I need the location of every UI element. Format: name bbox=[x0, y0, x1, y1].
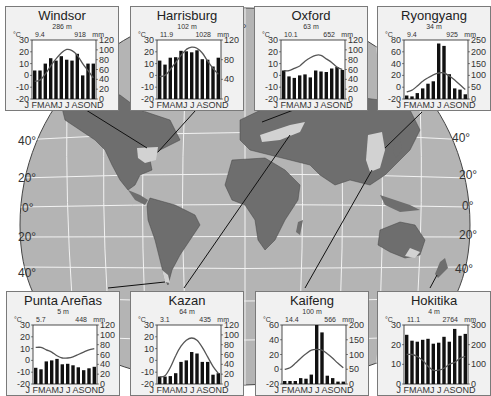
temp-tick-label: 0 bbox=[149, 355, 154, 365]
temp-tick-label: 0 bbox=[273, 70, 278, 80]
precip-bar bbox=[464, 334, 467, 384]
temp-tick-label: -10 bbox=[141, 82, 154, 92]
climate-chart-kazan: Kazan64 m°C3.1435mm3020100-10-2012010080… bbox=[130, 291, 244, 396]
precip-bar bbox=[163, 65, 166, 99]
precip-bar bbox=[190, 352, 193, 384]
precip-bar bbox=[76, 54, 79, 99]
precip-bar bbox=[39, 369, 42, 384]
precip-bar bbox=[299, 378, 302, 384]
lat-label-left-40s: 40° bbox=[18, 266, 36, 280]
precip-tick-label: 60 bbox=[100, 350, 110, 360]
climate-chart-ryongyang: Ryongyang34 m°C9.4925mm806040200-2025020… bbox=[377, 6, 491, 111]
precip-bar bbox=[211, 67, 214, 100]
precip-bar bbox=[309, 77, 312, 99]
temp-tick-label: 10 bbox=[391, 359, 401, 369]
precip-bar bbox=[217, 58, 220, 99]
climate-chart-kaifeng: Kaifeng100 m°C14.4566mm6040200-202001501… bbox=[255, 291, 369, 396]
precip-bar bbox=[287, 76, 290, 99]
precip-bar bbox=[61, 364, 64, 384]
precip-bar bbox=[201, 362, 204, 384]
precip-bar bbox=[314, 71, 317, 100]
precip-bar bbox=[92, 64, 95, 99]
temp-tick-label: 20 bbox=[268, 47, 278, 57]
precip-tick-label: 100 bbox=[471, 359, 486, 369]
precip-bar bbox=[185, 360, 188, 384]
temp-tick-label: 0 bbox=[274, 364, 279, 374]
climate-chart-punta-arenas: Punta Areñas5 m°C5.7448mm3020100-10-2012… bbox=[6, 291, 120, 396]
precip-bar bbox=[71, 365, 74, 384]
temp-tick-label: 30 bbox=[268, 35, 278, 45]
precip-bar bbox=[55, 359, 58, 384]
precip-tick-label: 120 bbox=[99, 35, 114, 45]
temp-tick-label: 30 bbox=[20, 320, 30, 330]
month-axis-label: J FMAMJ J ASOND bbox=[273, 100, 353, 110]
precip-bar bbox=[66, 364, 69, 384]
precip-tick-label: 300 bbox=[471, 320, 486, 330]
lat-label-left-20s: 20° bbox=[18, 230, 36, 244]
precip-bar bbox=[174, 373, 177, 384]
precip-tick-label: 80 bbox=[224, 340, 234, 350]
precip-bar bbox=[33, 71, 36, 100]
temp-tick-label: 20 bbox=[19, 47, 29, 57]
temp-tick-label: 10 bbox=[144, 59, 154, 69]
precip-tick-label: 50 bbox=[471, 82, 481, 92]
precip-bar bbox=[310, 375, 313, 384]
month-axis-label: J FMAMJ J ASOND bbox=[149, 100, 229, 110]
climate-plot: 30201003002001000J FMAMJ J ASOND bbox=[378, 292, 490, 395]
temp-tick-label: 10 bbox=[20, 344, 30, 354]
temp-tick-label: 20 bbox=[391, 70, 401, 80]
precip-bar bbox=[93, 367, 96, 384]
precip-bar bbox=[405, 96, 408, 100]
precip-bar bbox=[304, 379, 307, 384]
precip-bar bbox=[293, 78, 296, 99]
precip-tick-label: 20 bbox=[99, 84, 109, 94]
precip-tick-label: 80 bbox=[100, 340, 110, 350]
precip-bar bbox=[206, 60, 209, 99]
precip-bar bbox=[158, 61, 161, 99]
temp-tick-label: 80 bbox=[391, 35, 401, 45]
precip-bar bbox=[437, 44, 440, 100]
temp-tick-label: 20 bbox=[269, 350, 279, 360]
climate-plot: 3020100-10-20120100806040200J FMAMJ J AS… bbox=[7, 292, 119, 395]
temp-tick-label: 60 bbox=[391, 47, 401, 57]
precip-bar bbox=[410, 341, 413, 384]
precip-tick-label: 60 bbox=[348, 65, 358, 75]
precip-tick-label: 80 bbox=[224, 55, 234, 65]
lat-label-right-40n: 40° bbox=[452, 131, 470, 145]
lat-label-right-20s: 20° bbox=[459, 228, 477, 242]
precip-bar bbox=[298, 75, 301, 99]
precip-bar bbox=[169, 58, 172, 99]
precip-bar bbox=[179, 362, 182, 384]
precip-tick-label: 120 bbox=[224, 35, 239, 45]
precip-tick-label: 80 bbox=[348, 55, 358, 65]
precip-bar bbox=[206, 362, 209, 384]
precip-bar bbox=[448, 74, 451, 99]
precip-bar bbox=[437, 343, 440, 384]
temp-tick-label: 0 bbox=[149, 70, 154, 80]
temp-tick-label: -10 bbox=[17, 367, 30, 377]
precip-bar bbox=[303, 74, 306, 99]
precip-bar bbox=[405, 335, 408, 384]
precip-tick-label: 60 bbox=[99, 65, 109, 75]
precip-tick-label: 200 bbox=[471, 47, 486, 57]
precip-bar bbox=[201, 59, 204, 99]
precip-bar bbox=[448, 342, 451, 384]
precip-bar bbox=[336, 382, 339, 384]
temp-tick-label: 10 bbox=[268, 59, 278, 69]
precip-bar bbox=[38, 71, 41, 100]
precip-bar bbox=[77, 367, 80, 384]
precip-tick-label: 250 bbox=[471, 35, 486, 45]
climate-chart-windsor: Windsor286 m°C9.4918mm3020100-10-2012010… bbox=[5, 6, 119, 111]
temp-tick-label: 40 bbox=[391, 59, 401, 69]
precip-bar bbox=[442, 337, 445, 384]
precip-bar bbox=[283, 381, 286, 384]
temp-tick-label: 40 bbox=[269, 335, 279, 345]
temp-tick-label: 20 bbox=[144, 332, 154, 342]
precip-tick-label: 40 bbox=[100, 359, 110, 369]
precip-bar bbox=[81, 75, 84, 99]
precip-tick-label: 100 bbox=[471, 70, 486, 80]
precip-bar bbox=[87, 368, 90, 384]
precip-bar bbox=[44, 64, 47, 99]
lat-label-left-20n: 20° bbox=[18, 171, 36, 185]
precip-tick-label: 200 bbox=[349, 320, 364, 330]
